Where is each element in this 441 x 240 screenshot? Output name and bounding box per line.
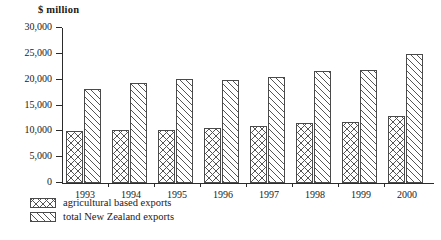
x-axis-label-1997: 1997	[249, 189, 289, 200]
y-tick-label: 0	[0, 176, 52, 187]
x-axis-label-1998: 1998	[295, 189, 335, 200]
bar-total-1998	[314, 71, 331, 183]
bar-total-1994	[130, 83, 147, 183]
x-axis-label-2000: 2000	[387, 189, 427, 200]
plot-area	[62, 28, 430, 183]
bar-total-1995	[176, 79, 193, 183]
legend-item-agricultural: agricultural based exports	[30, 196, 174, 209]
bar-total-1997	[268, 77, 285, 183]
legend-swatch-total-icon	[30, 212, 56, 222]
x-tick-mark	[200, 183, 201, 187]
bar-chart: $ million 30,00025,00020,00015,00010,000…	[0, 0, 441, 240]
y-tick-label: 5,000	[0, 150, 52, 161]
bar-agricultural-1998	[296, 123, 313, 183]
bar-total-1996	[222, 80, 239, 183]
legend: agricultural based exports total New Zea…	[30, 196, 174, 224]
x-tick-mark	[246, 183, 247, 187]
legend-swatch-agricultural-icon	[30, 198, 56, 208]
y-tick-label: 25,000	[0, 47, 52, 58]
x-axis-label-1996: 1996	[203, 189, 243, 200]
bar-agricultural-1993	[66, 131, 83, 183]
legend-label-agricultural: agricultural based exports	[63, 197, 171, 208]
x-tick-mark	[338, 183, 339, 187]
legend-item-total: total New Zealand exports	[30, 210, 174, 223]
bar-agricultural-1994	[112, 130, 129, 183]
x-axis-label-1999: 1999	[341, 189, 381, 200]
legend-label-total: total New Zealand exports	[63, 211, 174, 222]
y-tick-label: 30,000	[0, 21, 52, 32]
bar-agricultural-1999	[342, 122, 359, 183]
x-tick-mark	[108, 183, 109, 187]
x-tick-mark	[384, 183, 385, 187]
bar-total-1999	[360, 70, 377, 183]
bar-total-1993	[84, 89, 101, 183]
y-tick-label: 10,000	[0, 124, 52, 135]
y-axis-title: $ million	[38, 4, 79, 15]
bar-agricultural-1995	[158, 130, 175, 183]
x-tick-mark	[292, 183, 293, 187]
x-tick-mark	[154, 183, 155, 187]
bar-agricultural-1996	[204, 128, 221, 183]
bar-agricultural-2000	[388, 116, 405, 183]
x-axis-line	[62, 183, 434, 184]
bar-agricultural-1997	[250, 126, 267, 183]
y-tick-label: 15,000	[0, 99, 52, 110]
y-tick-label: 20,000	[0, 73, 52, 84]
bar-total-2000	[406, 54, 423, 183]
